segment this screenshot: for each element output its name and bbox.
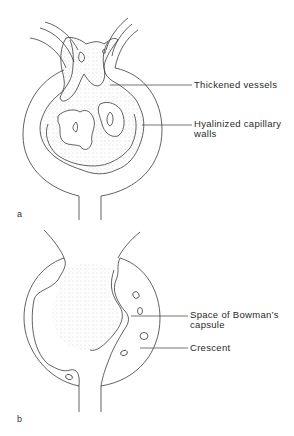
- panel-a-glomerulus: [23, 18, 162, 220]
- label-line: walls: [194, 129, 281, 139]
- glomerulus-figure: a b Thickened vessels Hyalinized capilla…: [0, 0, 294, 436]
- diagram-drawing: [0, 0, 294, 436]
- label-thickened-vessels: Thickened vessels: [194, 80, 277, 90]
- panel-letter-b: b: [17, 414, 22, 424]
- label-line: capsule: [190, 320, 279, 330]
- label-line: Crescent: [190, 342, 230, 353]
- label-space-of-bowmans-capsule: Space of Bowman’s capsule: [190, 310, 279, 330]
- panel-b-glomerulus: [24, 230, 160, 412]
- label-crescent: Crescent: [190, 343, 230, 353]
- label-line: Thickened vessels: [194, 79, 277, 90]
- panel-letter-a: a: [17, 209, 22, 219]
- label-hyalinized-capillary-walls: Hyalinized capillary walls: [194, 119, 281, 139]
